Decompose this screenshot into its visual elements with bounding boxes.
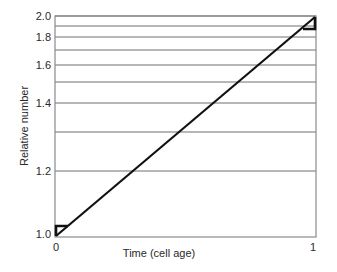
x-tick-1: 1 (310, 241, 316, 253)
y-tick-1-8: 1.8 (36, 31, 51, 43)
x-tick-0: 0 (53, 241, 59, 253)
y-tick-1-4: 1.4 (36, 97, 51, 109)
y-tick-1-0: 1.0 (36, 228, 51, 240)
chart: 2.0 1.8 1.6 1.4 1.2 1.0 0 1 Time (cell a… (0, 0, 337, 272)
y-axis-label: Relative number (18, 86, 30, 166)
y-tick-1-6: 1.6 (36, 59, 51, 71)
gridlines (55, 16, 316, 171)
y-tick-2-0: 2.0 (36, 10, 51, 22)
y-tick-1-2: 1.2 (36, 165, 51, 177)
x-axis-label: Time (cell age) (123, 247, 195, 259)
